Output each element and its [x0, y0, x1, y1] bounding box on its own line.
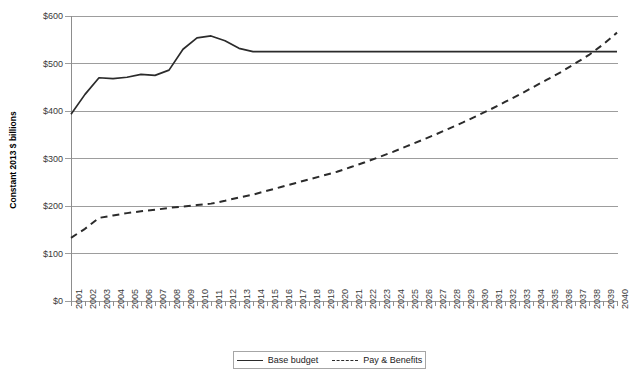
legend-item[interactable]: Base budget [237, 355, 319, 365]
legend-label: Base budget [268, 355, 319, 365]
x-tick-label: 2037 [579, 289, 588, 309]
x-tick-label: 2009 [187, 289, 196, 309]
x-tick-label: 2033 [523, 289, 532, 309]
x-tick-label: 2017 [299, 289, 308, 309]
x-tick-label: 2012 [229, 289, 238, 309]
x-tick-label: 2031 [495, 289, 504, 309]
chart-container: Constant 2013 $ billions $0$100$200$300$… [0, 0, 630, 380]
legend-swatch-dashed [332, 360, 358, 361]
x-tick-label: 2008 [173, 289, 182, 309]
x-tick-label: 2039 [607, 289, 616, 309]
x-tick-label: 2021 [355, 289, 364, 309]
gridlines [65, 16, 618, 301]
x-tick-label: 2022 [369, 289, 378, 309]
x-tick-label: 2027 [439, 289, 448, 309]
x-tick-label: 2011 [215, 290, 224, 309]
x-tick-label: 2005 [131, 289, 140, 309]
y-tick-label: $400 [17, 106, 63, 116]
x-tick-label: 2023 [383, 289, 392, 309]
x-tick-label: 2026 [425, 289, 434, 309]
x-tick-label: 2006 [145, 289, 154, 309]
x-tick-label: 2014 [257, 289, 266, 309]
x-tick-label: 2004 [117, 289, 126, 309]
chart-legend: Base budgetPay & Benefits [233, 351, 426, 369]
x-tick-label: 2025 [411, 289, 420, 309]
x-tick-label: 2029 [467, 289, 476, 309]
x-tick-label: 2024 [397, 289, 406, 309]
x-tick-label: 2038 [593, 289, 602, 309]
legend-item[interactable]: Pay & Benefits [332, 355, 422, 365]
plot-area [0, 0, 630, 380]
x-tick-label: 2016 [285, 289, 294, 309]
x-tick-label: 2034 [537, 289, 546, 309]
x-tick-label: 2010 [201, 289, 210, 309]
x-tick-label: 2020 [341, 289, 350, 309]
x-tick-label: 2003 [103, 289, 112, 309]
x-tick-label: 2007 [159, 289, 168, 309]
x-tick-label: 2015 [271, 289, 280, 309]
y-tick-label: $100 [17, 249, 63, 259]
x-tick-label: 2028 [453, 289, 462, 309]
x-tick-label: 2040 [621, 289, 630, 309]
x-tick-label: 2035 [551, 289, 560, 309]
y-tick-label: $500 [17, 59, 63, 69]
y-tick-label: $300 [17, 154, 63, 164]
legend-swatch-solid [237, 360, 263, 361]
x-tick-label: 2002 [89, 289, 98, 309]
x-tick-label: 2013 [243, 289, 252, 309]
x-tick-label: 2019 [327, 289, 336, 309]
x-tick-label: 2032 [509, 289, 518, 309]
series-line-base-budget [71, 36, 617, 114]
x-tick-label: 2036 [565, 289, 574, 309]
x-tick-label: 2001 [75, 289, 84, 309]
y-tick-label: $600 [17, 11, 63, 21]
x-tick-label: 2018 [313, 289, 322, 309]
y-tick-label: $200 [17, 201, 63, 211]
x-tick-label: 2030 [481, 289, 490, 309]
legend-label: Pay & Benefits [363, 355, 422, 365]
y-tick-label: $0 [17, 296, 63, 306]
